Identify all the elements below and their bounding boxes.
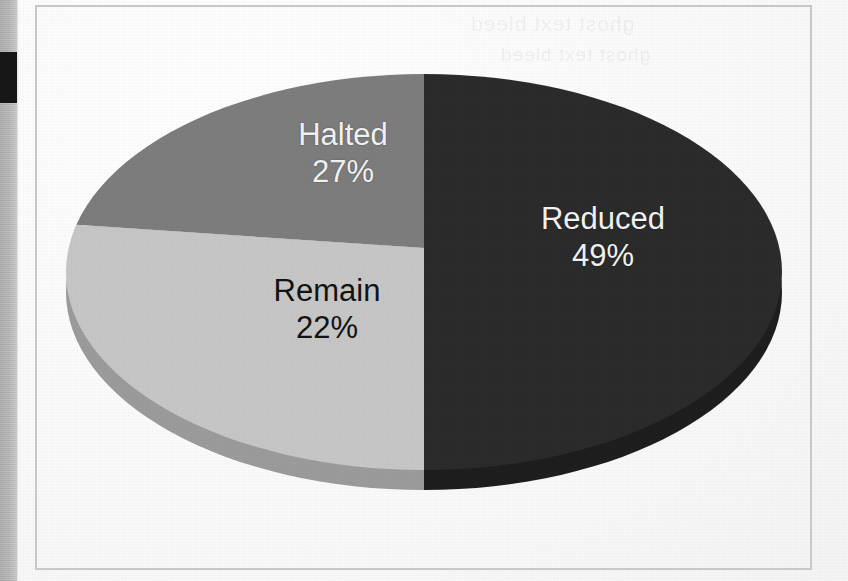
slice-label-reduced-name: Reduced [503,201,703,238]
slice-label-reduced: Reduced 49% [503,201,703,274]
slice-label-halted-name: Halted [253,117,433,154]
scanned-page: ghost text bleed ghost text bleed [0,0,848,581]
gutter-edge-highlight [17,0,19,581]
pie-chart: Reduced 49% Halted 27% Remain 22% [35,5,812,570]
slice-label-halted: Halted 27% [253,117,433,190]
slice-label-reduced-value: 49% [503,238,703,275]
slice-label-remain-name: Remain [227,273,427,310]
scanner-gutter-strip [0,0,17,581]
slice-label-remain: Remain 22% [227,273,427,346]
slice-label-halted-value: 27% [253,154,433,191]
slice-label-remain-value: 22% [227,310,427,347]
gutter-black-block [0,52,17,103]
